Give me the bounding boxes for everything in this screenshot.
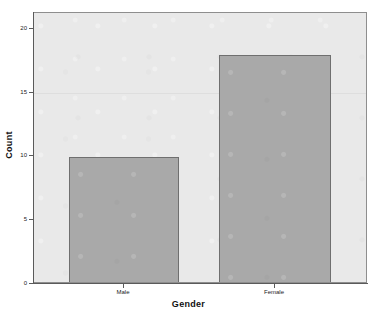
y-tick-mark-5 xyxy=(29,219,33,220)
y-tick-mark-20 xyxy=(29,28,33,29)
y-tick-label-0: 0 xyxy=(8,280,27,287)
y-axis-title: Count xyxy=(4,120,14,170)
bar-male[interactable] xyxy=(69,157,179,284)
y-tick-label-15: 15 xyxy=(8,89,27,96)
x-axis-title: Gender xyxy=(0,299,377,309)
bar-chart: 20 15 10 5 0 Male Female Gender Count xyxy=(0,0,377,318)
bar-female[interactable] xyxy=(219,55,331,284)
x-tick-label-female: Female xyxy=(244,288,304,296)
y-tick-mark-15 xyxy=(29,92,33,93)
x-tick-label-male: Male xyxy=(93,288,153,296)
y-axis-line xyxy=(33,12,34,284)
y-tick-label-5: 5 xyxy=(8,216,27,223)
y-tick-mark-0 xyxy=(29,283,33,284)
y-tick-label-20: 20 xyxy=(8,25,27,32)
x-axis-line xyxy=(33,283,368,284)
plot-area xyxy=(33,12,367,283)
y-tick-mark-10 xyxy=(29,155,33,156)
